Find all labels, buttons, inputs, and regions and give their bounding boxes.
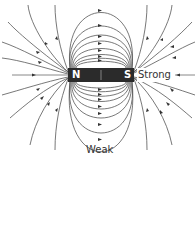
- strong-label: Strong: [137, 68, 172, 82]
- north-pole-label: N: [72, 68, 80, 82]
- weak-label: Weak: [86, 144, 113, 156]
- south-pole-label: S: [124, 68, 131, 82]
